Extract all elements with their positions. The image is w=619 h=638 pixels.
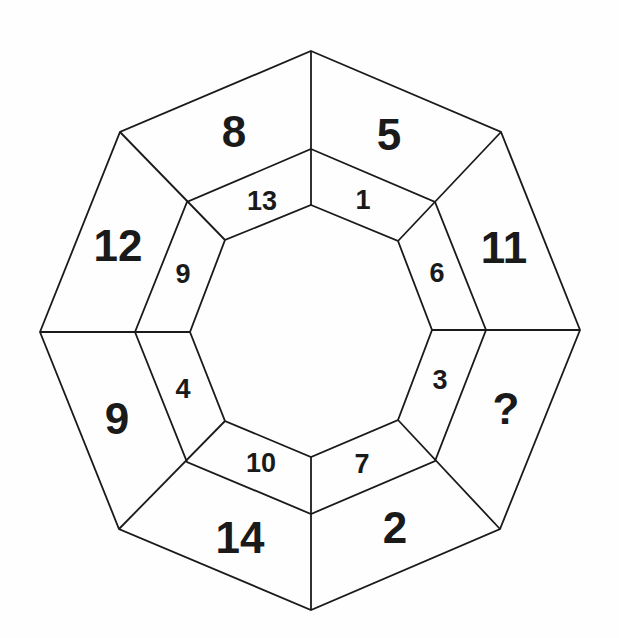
outer-value-left-upper: 12 (94, 221, 143, 270)
inner-value-right-lower: 3 (432, 365, 447, 395)
inner-value-bottom-right: 7 (354, 449, 369, 479)
inner-value-left-upper: 9 (175, 259, 190, 289)
inner-value-top-right: 1 (355, 185, 370, 215)
inner-value-top-left: 13 (247, 186, 277, 216)
outer-value-right-lower-unknown: ? (493, 384, 520, 433)
outer-value-right-upper: 11 (481, 223, 528, 272)
radial-dividers (40, 51, 580, 610)
outer-value-left-lower: 9 (105, 394, 129, 443)
octagon-puzzle-diagram: 8 5 11 ? 2 14 9 12 13 1 6 3 7 10 4 9 (0, 0, 619, 638)
outer-value-top-right: 5 (377, 110, 401, 159)
inner-octagon (190, 205, 432, 457)
outer-value-bottom-left: 14 (216, 513, 265, 562)
inner-ring-values: 13 1 6 3 7 10 4 9 (175, 185, 447, 479)
inner-value-right-upper: 6 (429, 258, 444, 288)
inner-value-left-lower: 4 (175, 374, 190, 404)
inner-value-bottom-left: 10 (246, 448, 276, 478)
outer-value-top-left: 8 (222, 107, 246, 156)
outer-value-bottom-right: 2 (383, 503, 407, 552)
